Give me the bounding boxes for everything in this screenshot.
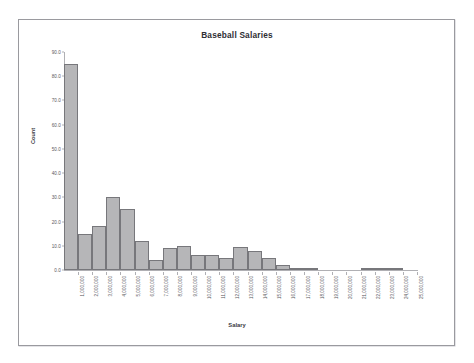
- x-tick-mark: [191, 272, 192, 275]
- bar: [92, 226, 106, 270]
- x-tick-label: 2,000,000: [94, 276, 99, 296]
- chart-title: Baseball Salaries: [0, 30, 474, 40]
- x-tick-mark: [163, 272, 164, 275]
- x-tick-mark: [361, 272, 362, 275]
- bar: [191, 255, 205, 270]
- bar: [219, 258, 233, 270]
- x-tick-mark: [219, 272, 220, 275]
- y-tick-label: 90.0: [52, 50, 64, 55]
- x-tick-label: 5,000,000: [136, 276, 141, 296]
- y-tick-label: 40.0: [52, 171, 64, 176]
- x-tick-mark: [417, 272, 418, 275]
- bar: [290, 268, 304, 270]
- x-tick-label: 24,000,000: [404, 276, 409, 299]
- x-tick-label: 7,000,000: [164, 276, 169, 296]
- x-tick-mark: [403, 272, 404, 275]
- x-tick-mark: [389, 272, 390, 275]
- bar: [304, 268, 318, 270]
- x-tick-label: 3,000,000: [108, 276, 113, 296]
- x-tick-label: 4,000,000: [122, 276, 127, 296]
- x-tick-mark: [304, 272, 305, 275]
- x-tick-label: 21,000,000: [362, 276, 367, 299]
- x-tick-mark: [177, 272, 178, 275]
- y-tick-label: 50.0: [52, 146, 64, 151]
- x-tick-mark: [120, 272, 121, 275]
- x-tick-mark: [262, 272, 263, 275]
- x-tick-label: 12,000,000: [235, 276, 240, 299]
- bar: [248, 251, 262, 270]
- x-tick-mark: [276, 272, 277, 275]
- x-tick-mark: [149, 272, 150, 275]
- x-tick-label: 6,000,000: [150, 276, 155, 296]
- x-tick-label: 1,000,000: [80, 276, 85, 296]
- x-tick-label: 8,000,000: [178, 276, 183, 296]
- y-tick-label: 80.0: [52, 74, 64, 79]
- bar: [233, 247, 247, 270]
- x-tick-label: 18,000,000: [320, 276, 325, 299]
- x-tick-label: 11,000,000: [221, 276, 226, 299]
- y-tick-label: 10.0: [52, 243, 64, 248]
- bar: [389, 268, 403, 270]
- x-tick-label: 25,000,000: [419, 276, 424, 299]
- x-tick-mark: [290, 272, 291, 275]
- x-tick-label: 15,000,000: [277, 276, 282, 299]
- bar: [262, 258, 276, 270]
- x-tick-mark: [135, 272, 136, 275]
- bar: [276, 265, 290, 270]
- x-tick-mark: [318, 272, 319, 275]
- x-tick-mark: [233, 272, 234, 275]
- x-tick-label: 10,000,000: [207, 276, 212, 299]
- x-tick-label: 20,000,000: [348, 276, 353, 299]
- y-tick-label: 20.0: [52, 219, 64, 224]
- x-tick-label: 23,000,000: [390, 276, 395, 299]
- x-tick-mark: [92, 272, 93, 275]
- bar: [163, 248, 177, 270]
- y-axis-title: Count: [30, 128, 36, 144]
- x-tick-mark: [78, 272, 79, 275]
- bar: [106, 197, 120, 270]
- bar: [78, 234, 92, 270]
- x-tick-mark: [346, 272, 347, 275]
- x-tick-mark: [332, 272, 333, 275]
- x-tick-mark: [375, 272, 376, 275]
- x-tick-label: 9,000,000: [193, 276, 198, 296]
- plot-area: 0.010.020.030.040.050.060.070.080.090.0: [64, 52, 417, 270]
- x-tick-label: 19,000,000: [334, 276, 339, 299]
- bar: [64, 64, 78, 270]
- x-tick-mark: [205, 272, 206, 275]
- x-tick-label: 13,000,000: [249, 276, 254, 299]
- x-tick-label: 14,000,000: [263, 276, 268, 299]
- y-tick-label: 0.0: [54, 268, 64, 273]
- x-axis-line: [64, 270, 418, 271]
- bar: [135, 241, 149, 270]
- x-tick-label: 22,000,000: [376, 276, 381, 299]
- y-tick-label: 60.0: [52, 122, 64, 127]
- y-tick-label: 30.0: [52, 195, 64, 200]
- x-tick-mark: [248, 272, 249, 275]
- x-tick-mark: [106, 272, 107, 275]
- bar: [177, 246, 191, 270]
- bar: [375, 268, 389, 270]
- x-tick-label: 16,000,000: [291, 276, 296, 299]
- x-axis-title: Salary: [0, 322, 474, 328]
- x-tick-label: 17,000,000: [306, 276, 311, 299]
- bar: [205, 255, 219, 270]
- y-tick-label: 70.0: [52, 98, 64, 103]
- bar: [149, 260, 163, 270]
- bar: [361, 268, 375, 270]
- screenshot-page: Baseball Salaries Count Salary 0.010.020…: [0, 0, 474, 363]
- bar: [120, 209, 134, 270]
